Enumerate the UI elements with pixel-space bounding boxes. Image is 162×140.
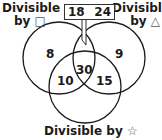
- label-triangle-set: Divisible by △: [112, 2, 160, 28]
- region-triangle-star: 15: [96, 74, 113, 88]
- callout-pointer: [82, 19, 86, 45]
- triangle-symbol-icon: △: [151, 14, 160, 28]
- label-triangle-by: by: [130, 14, 146, 28]
- region-square-star: 10: [57, 74, 74, 88]
- label-square-set: Divisible by □: [2, 2, 60, 28]
- region-all-three: 30: [76, 63, 93, 77]
- venn-diagram: Divisible by □ Divisible by △ Divisible …: [0, 0, 162, 140]
- callout-value-2: 24: [94, 5, 111, 19]
- label-square-by: by: [14, 14, 30, 28]
- region-triangle-only: 9: [115, 47, 123, 61]
- callout-box: 18 24: [64, 4, 115, 20]
- region-square-only: 8: [46, 47, 54, 61]
- square-symbol-icon: □: [35, 14, 46, 28]
- callout-value-1: 18: [68, 5, 85, 19]
- star-symbol-icon: ☆: [127, 124, 138, 138]
- label-star-set: Divisible by ☆: [44, 125, 138, 138]
- label-star-text: Divisible by: [44, 124, 123, 138]
